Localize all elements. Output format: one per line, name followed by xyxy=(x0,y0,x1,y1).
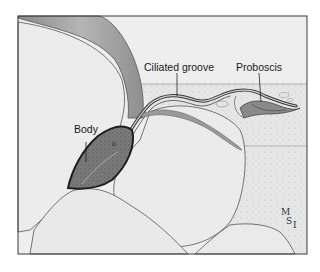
illustration-drawing xyxy=(0,0,320,272)
label-body: Body xyxy=(74,123,98,135)
signature-i: I xyxy=(293,220,297,230)
signature-s: S xyxy=(286,216,292,226)
illustration: Body Ciliated groove Proboscis M S I xyxy=(0,0,320,272)
label-proboscis: Proboscis xyxy=(236,61,282,73)
label-ciliated-groove: Ciliated groove xyxy=(144,61,214,73)
